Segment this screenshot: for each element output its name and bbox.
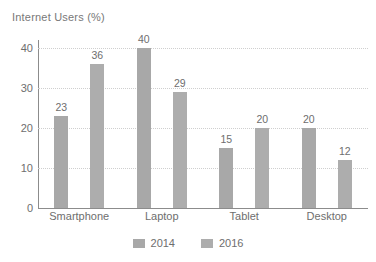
x-axis-baseline	[38, 208, 368, 209]
bar-column: 20	[302, 40, 316, 208]
bar	[219, 148, 233, 208]
bar-chart: Internet Users (%) 010203040 23364029152…	[0, 0, 376, 262]
bar-value-label: 15	[220, 133, 232, 145]
legend-swatch-icon	[133, 239, 145, 248]
gridline	[38, 168, 368, 169]
x-axis-category-label: Tablet	[230, 210, 259, 222]
bar-column: 15	[219, 40, 233, 208]
bar	[173, 92, 187, 208]
plot-area: 2336402915202012	[38, 40, 368, 208]
bar-value-label: 36	[91, 49, 103, 61]
bar-column: 29	[173, 40, 187, 208]
y-axis-tick-label: 40	[3, 42, 33, 54]
bar-value-label: 23	[55, 101, 67, 113]
bar	[255, 128, 269, 208]
legend-item[interactable]: 2016	[201, 238, 243, 249]
y-axis-tick-label: 10	[3, 162, 33, 174]
bar-value-label: 40	[138, 33, 150, 45]
bar-value-label: 20	[303, 113, 315, 125]
y-axis-tick-label: 0	[3, 202, 33, 214]
bar-column: 12	[338, 40, 352, 208]
bar	[338, 160, 352, 208]
bar	[302, 128, 316, 208]
bar-value-label: 29	[174, 77, 186, 89]
bar-column: 20	[255, 40, 269, 208]
x-axis-category-label: Desktop	[307, 210, 347, 222]
y-axis-tick-label: 20	[3, 122, 33, 134]
chart-title: Internet Users (%)	[12, 11, 105, 23]
bar	[137, 48, 151, 208]
x-axis-category-labels: SmartphoneLaptopTabletDesktop	[38, 210, 368, 228]
chart-legend: 20142016	[0, 238, 376, 249]
legend-label: 2014	[151, 238, 175, 249]
bar-column: 36	[90, 40, 104, 208]
legend-swatch-icon	[201, 239, 213, 248]
y-axis-tick-label: 30	[3, 82, 33, 94]
legend-label: 2016	[219, 238, 243, 249]
x-axis-category-label: Smartphone	[49, 210, 109, 222]
bar	[90, 64, 104, 208]
bar-value-label: 12	[339, 145, 351, 157]
legend-item[interactable]: 2014	[133, 238, 175, 249]
bar-value-label: 20	[256, 113, 268, 125]
bar	[54, 116, 68, 208]
gridline	[38, 128, 368, 129]
gridline	[38, 48, 368, 49]
bar-column: 23	[54, 40, 68, 208]
y-axis-tick-labels: 010203040	[0, 40, 33, 208]
x-axis-category-label: Laptop	[145, 210, 179, 222]
bar-column: 40	[137, 40, 151, 208]
gridline	[38, 88, 368, 89]
